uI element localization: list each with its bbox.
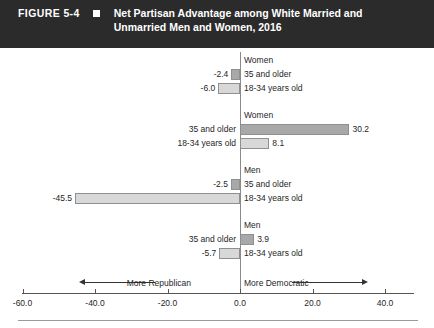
x-axis-tick-label: -20.0 xyxy=(158,298,177,309)
x-axis-tick-label: -60.0 xyxy=(13,298,32,309)
bar-value-label: -5.7 xyxy=(202,247,217,260)
bar xyxy=(231,69,240,80)
figure-number-label: FIGURE 5-4 xyxy=(18,6,80,20)
x-axis-tick xyxy=(240,289,241,293)
bar-category-label: 35 and older xyxy=(244,68,291,81)
group-gender-label: Women xyxy=(244,109,273,122)
x-axis-tick-label: 20.0 xyxy=(304,298,321,309)
x-axis-tick xyxy=(95,289,96,293)
x-axis-tick xyxy=(385,289,386,293)
direction-annotation-row: More Republican More Democratic xyxy=(0,276,434,290)
bar-category-label: 35 and older xyxy=(189,123,236,136)
group-gender-label: Men xyxy=(244,164,261,177)
bar xyxy=(240,124,349,135)
bar-category-label: 18-34 years old xyxy=(244,247,303,260)
arrow-right-icon xyxy=(292,282,362,283)
x-axis-tick-label: -40.0 xyxy=(85,298,104,309)
bar-value-label: 3.9 xyxy=(257,233,269,246)
chart-plot-area: MarriedWomen-2.435 and older-6.018-34 ye… xyxy=(0,48,434,328)
bar-value-label: -2.4 xyxy=(214,68,229,81)
x-axis-tick-label: 40.0 xyxy=(377,298,394,309)
square-bullet-icon xyxy=(93,10,100,17)
bar-row: -6.018-34 years old xyxy=(0,82,434,95)
bar xyxy=(75,193,240,204)
bottom-divider xyxy=(18,320,418,321)
bar-row: 30.235 and older xyxy=(0,123,434,136)
more-republican-label: More Republican xyxy=(127,276,191,290)
bar-row: -2.535 and older xyxy=(0,178,434,191)
group-gender-label: Women xyxy=(244,54,273,67)
x-axis-tick xyxy=(168,289,169,293)
x-axis-line xyxy=(22,293,414,294)
bar-row: -5.718-34 years old xyxy=(0,247,434,260)
bar-row: -45.518-34 years old xyxy=(0,192,434,205)
bar-value-label: -2.5 xyxy=(213,178,228,191)
bar xyxy=(240,138,269,149)
bar-value-label: 8.1 xyxy=(272,137,284,150)
bar-value-label: -6.0 xyxy=(201,82,216,95)
bar-category-label: 35 and older xyxy=(244,178,291,191)
bar-category-label: 35 and older xyxy=(189,233,236,246)
figure-title: Net Partisan Advantage among White Marri… xyxy=(114,6,382,34)
bar-category-label: 18-34 years old xyxy=(244,192,303,205)
bar-row: -2.435 and older xyxy=(0,68,434,81)
bar xyxy=(218,83,240,94)
x-axis-tick xyxy=(313,289,314,293)
figure-header: FIGURE 5-4 Net Partisan Advantage among … xyxy=(0,0,434,48)
x-axis-tick xyxy=(23,289,24,293)
bar-row: 8.118-34 years old xyxy=(0,137,434,150)
more-democratic-label: More Democratic xyxy=(244,276,309,290)
bar-value-label: -45.5 xyxy=(53,192,72,205)
bar-category-label: 18-34 years old xyxy=(244,82,303,95)
group-gender-label: Men xyxy=(244,219,261,232)
x-axis-tick-label: 0.0 xyxy=(234,298,246,309)
bar-category-label: 18-34 years old xyxy=(177,137,236,150)
bar-value-label: 30.2 xyxy=(352,123,369,136)
bar xyxy=(219,248,240,259)
bar xyxy=(231,179,240,190)
bar xyxy=(240,234,254,245)
bar-row: 3.935 and older xyxy=(0,233,434,246)
